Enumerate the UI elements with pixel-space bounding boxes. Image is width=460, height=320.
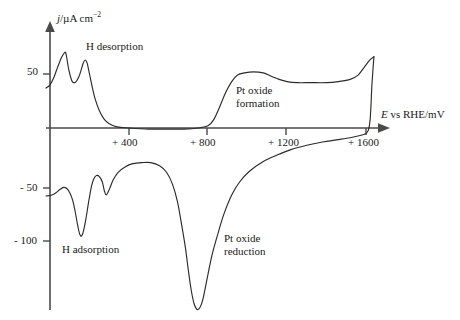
y-axis-units: /µA cm (60, 12, 93, 24)
annotation-pt-oxide-formation-line1: Pt oxide (236, 84, 279, 97)
x-tick-label-1200: + 1200 (268, 136, 299, 149)
annotation-pt-oxide-formation: Pt oxide formation (236, 84, 279, 110)
y-tick-label-minus-100: - 100 (14, 234, 37, 247)
voltammogram-plot (0, 0, 460, 320)
y-tick-label-50: 50 (27, 65, 38, 78)
y-tick-label-minus-50: - 50 (20, 181, 37, 194)
x-tick-label-1600: + 1600 (348, 136, 379, 149)
y-tick-marks (43, 74, 50, 241)
axes-group (43, 21, 390, 310)
y-axis-exponent: −2 (93, 10, 101, 19)
y-axis-arrow-icon (45, 21, 55, 32)
y-axis-label: j/µA cm−2 (57, 8, 101, 25)
x-axis-label: E vs RHE/mV (381, 108, 445, 121)
annotation-pt-oxide-reduction: Pt oxide reduction (224, 232, 266, 258)
x-axis-units: vs RHE/mV (388, 108, 445, 120)
annotation-pt-oxide-reduction-line2: reduction (224, 245, 266, 258)
x-tick-label-400: + 400 (112, 136, 137, 149)
annotation-h-desorption: H desorption (86, 40, 143, 53)
annotation-pt-oxide-reduction-line1: Pt oxide (224, 232, 266, 245)
x-axis-arrow-icon (378, 123, 390, 133)
x-tick-label-800: + 800 (190, 136, 215, 149)
cyclic-voltammogram-figure: j/µA cm−2 E vs RHE/mV 50 - 50 - 100 + 40… (0, 0, 460, 320)
curve-group (46, 52, 374, 309)
annotation-pt-oxide-formation-line2: formation (236, 97, 279, 110)
anodic-sweep-curve (46, 52, 374, 129)
cathodic-sweep-curve (46, 57, 374, 310)
x-axis-symbol: E (381, 108, 388, 120)
annotation-h-adsorption: H adsorption (62, 243, 119, 256)
